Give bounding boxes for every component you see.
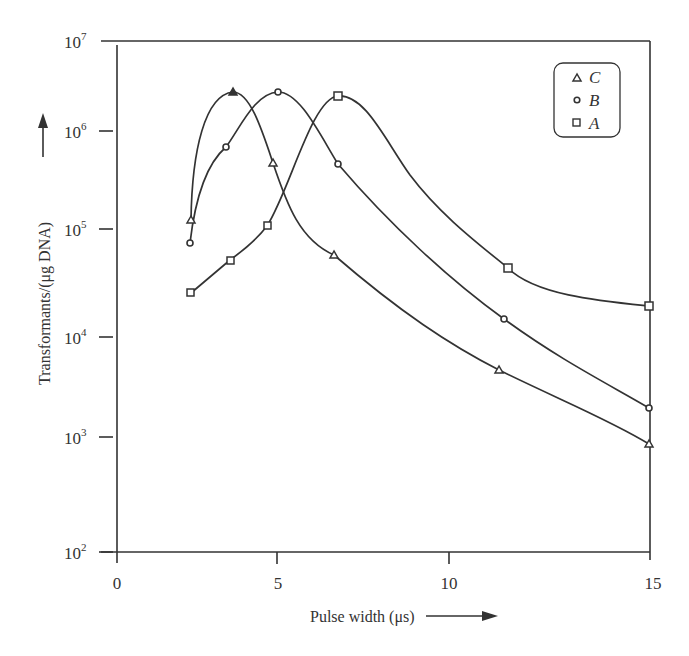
y-axis-ticks: [99, 131, 113, 552]
series-c-markers: [187, 88, 653, 447]
x-axis-title: Pulse width (μs): [310, 608, 415, 626]
square-marker-icon: [573, 119, 580, 126]
square-marker-icon: [187, 289, 194, 296]
chart: 107 106 105 104 103 102 0 5 10 15 Pulse …: [0, 0, 689, 656]
triangle-marker-icon: [269, 159, 277, 166]
svg-text:B: B: [589, 91, 600, 110]
circle-marker-icon: [223, 144, 229, 150]
y-tick-label: 104: [64, 326, 87, 348]
square-marker-icon: [334, 92, 342, 100]
square-marker-icon: [264, 222, 271, 229]
square-marker-icon: [227, 257, 234, 264]
circle-marker-icon: [574, 97, 580, 103]
series-c-curve: [191, 92, 649, 444]
legend: C B A: [554, 63, 620, 137]
triangle-marker-icon: [645, 440, 653, 447]
square-marker-icon: [645, 302, 653, 310]
circle-marker-icon: [275, 89, 281, 95]
y-tick-label: 106: [64, 120, 87, 142]
x-tick-label: 0: [113, 574, 122, 593]
circle-marker-icon: [501, 316, 507, 322]
y-axis-labels: 107 106 105 104 103 102: [64, 30, 87, 563]
circle-marker-icon: [646, 405, 652, 411]
x-axis-labels: 0 5 10 15: [113, 574, 662, 593]
y-tick-label: 105: [64, 218, 87, 240]
series-b-curve: [190, 92, 649, 408]
x-tick-label: 10: [441, 574, 458, 593]
y-tick-label: 102: [64, 541, 87, 563]
triangle-marker-icon: [229, 88, 237, 95]
x-tick-label: 5: [274, 574, 283, 593]
svg-text:C: C: [589, 68, 601, 87]
triangle-marker-icon: [330, 251, 338, 258]
triangle-marker-icon: [495, 366, 503, 373]
svg-text:A: A: [588, 114, 600, 133]
y-tick-label: 103: [64, 426, 87, 448]
x-axis-arrow-icon: [426, 611, 498, 621]
circle-marker-icon: [187, 240, 193, 246]
y-axis-title: Transformants/(μg DNA): [36, 222, 54, 385]
square-marker-icon: [504, 264, 512, 272]
circle-marker-icon: [335, 161, 341, 167]
x-tick-label: 15: [645, 574, 662, 593]
y-axis-arrow-icon: [38, 113, 48, 157]
y-tick-label: 107: [64, 30, 87, 52]
x-axis-ticks: [277, 552, 449, 564]
